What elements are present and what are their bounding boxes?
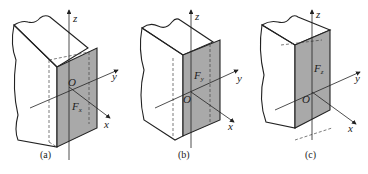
panel-a: z y x O Fx (a) (12, 10, 118, 161)
cross-section-face (295, 30, 330, 128)
x-axis-label: x (103, 118, 109, 130)
origin-label: O (302, 93, 310, 105)
y-axis-label: y (236, 72, 242, 84)
caption-c: (c) (305, 149, 316, 161)
panel-b: z y x O Fy (b) (140, 10, 242, 161)
cross-section-face (183, 40, 220, 136)
caption-b: (b) (178, 149, 190, 161)
y-axis-label: y (111, 70, 117, 82)
origin-label: O (183, 93, 191, 105)
y-axis-label: y (354, 72, 360, 84)
caption-a: (a) (40, 149, 51, 161)
beam-side-face (140, 28, 183, 140)
beam-side-face (260, 25, 295, 128)
origin-label: O (68, 76, 76, 88)
beam-side-face (12, 25, 57, 147)
x-axis-label: x (227, 120, 233, 132)
z-axis-label: z (194, 10, 200, 22)
z-axis-label: z (315, 8, 321, 20)
z-axis-label: z (72, 12, 78, 24)
x-axis-label: x (347, 122, 353, 134)
diagram-canvas: z y x O Fx (a) z y x O Fy (b) z y x O Fz… (0, 0, 368, 174)
panel-c: z y x O Fz (c) (260, 8, 360, 161)
